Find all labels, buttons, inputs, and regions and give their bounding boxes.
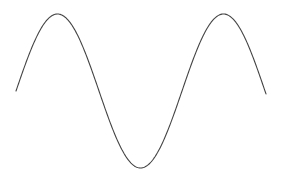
sine-wave-plot [0, 0, 282, 182]
